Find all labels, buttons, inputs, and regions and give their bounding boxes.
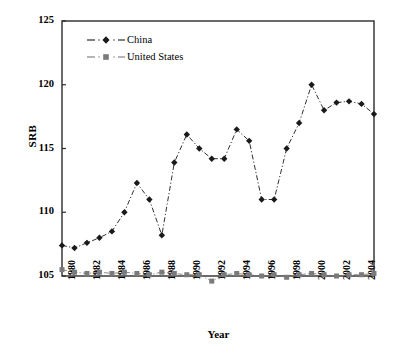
data-point-marker [221,156,227,162]
data-point-marker [334,274,339,279]
data-point-marker [271,196,277,202]
data-point-marker [258,196,264,202]
data-point-marker [247,272,252,277]
data-point-marker [121,209,127,215]
data-point-marker [209,156,215,162]
data-point-marker [209,279,214,284]
data-point-marker [234,271,239,276]
data-point-marker [171,159,177,165]
data-point-marker [184,272,189,277]
data-point-marker [346,98,352,104]
data-point-marker [284,275,289,280]
data-point-marker [321,107,327,113]
data-point-marker [322,272,327,277]
data-point-marker [60,267,65,272]
data-point-marker [59,242,65,248]
srb-line-chart: SRB Year 105110115120125 198019821984198… [0,0,397,353]
data-point-marker [372,271,377,276]
data-point-marker [96,235,102,241]
data-point-marker [97,270,102,275]
data-point-marker [347,272,352,277]
data-point-marker [197,272,202,277]
data-point-marker [259,274,264,279]
data-point-marker [222,272,227,277]
data-point-marker [184,131,190,137]
data-point-marker [84,240,90,246]
data-point-marker [309,271,314,276]
data-point-marker [109,228,115,234]
data-point-marker [297,272,302,277]
data-point-marker [147,272,152,277]
plot-area [0,0,397,353]
data-point-marker [272,272,277,277]
data-point-marker [296,120,302,126]
data-point-marker [333,99,339,105]
data-point-marker [359,272,364,277]
data-point-marker [134,180,140,186]
data-point-marker [146,196,152,202]
data-point-marker [308,82,314,88]
data-point-marker [134,271,139,276]
data-point-marker [159,270,164,275]
series-line-china [62,85,374,248]
data-point-marker [122,270,127,275]
data-point-marker [371,111,377,117]
data-point-marker [172,271,177,276]
data-point-marker [283,145,289,151]
data-point-marker [71,245,77,251]
data-point-marker [84,271,89,276]
data-point-marker [159,232,165,238]
data-point-marker [109,271,114,276]
data-point-marker [72,270,77,275]
